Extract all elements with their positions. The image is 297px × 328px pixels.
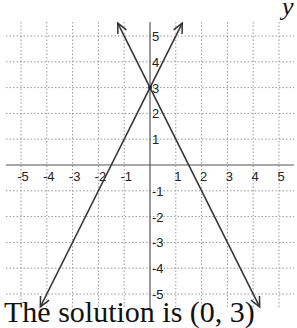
x-tick-label: -2 xyxy=(95,169,107,184)
x-tick-label: 3 xyxy=(226,169,233,184)
x-tick-label: -4 xyxy=(43,169,55,184)
axes xyxy=(6,22,294,308)
x-tick-label: 4 xyxy=(252,169,259,184)
x-tick-label: 5 xyxy=(277,169,284,184)
x-tick-label: -3 xyxy=(69,169,81,184)
y-tick-label: 2 xyxy=(152,106,159,121)
intersection-point xyxy=(148,86,152,90)
y-tick-label: 4 xyxy=(152,55,159,70)
y-tick-label: 5 xyxy=(152,29,159,44)
x-tick-label: -5 xyxy=(17,169,29,184)
y-tick-label: -4 xyxy=(152,261,164,276)
y-tick-label: -3 xyxy=(152,235,164,250)
solution-caption: The solution is (0, 3) xyxy=(4,297,255,327)
x-tick-label: -1 xyxy=(120,169,132,184)
x-tick-label: 2 xyxy=(200,169,207,184)
x-tick-label: 1 xyxy=(174,169,181,184)
y-tick-label: 1 xyxy=(152,132,159,147)
y-tick-label: -1 xyxy=(152,184,164,199)
y-tick-label: -2 xyxy=(152,210,164,225)
